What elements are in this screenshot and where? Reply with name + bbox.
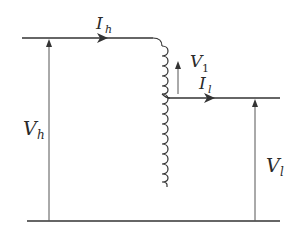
v1-arrow bbox=[175, 61, 181, 94]
svg-text:l: l bbox=[280, 165, 284, 179]
autotransformer-diagram: I h V 1 I l V h V l bbox=[0, 0, 306, 239]
vl-arrow bbox=[252, 99, 258, 221]
vh-arrow bbox=[46, 39, 52, 221]
coil-winding bbox=[162, 46, 168, 187]
svg-text:I: I bbox=[198, 73, 206, 93]
arrow-up-icon bbox=[252, 99, 258, 107]
svg-text:h: h bbox=[37, 128, 45, 142]
tap-wire bbox=[162, 93, 280, 103]
label-il: I l bbox=[198, 73, 212, 96]
arrow-up-icon bbox=[175, 61, 181, 69]
label-ih: I h bbox=[95, 13, 112, 36]
arrow-up-icon bbox=[46, 39, 52, 47]
top-wire bbox=[22, 33, 162, 46]
svg-text:l: l bbox=[208, 83, 212, 96]
svg-text:h: h bbox=[105, 23, 112, 36]
label-vh: V h bbox=[23, 117, 45, 142]
label-v1: V 1 bbox=[190, 51, 209, 75]
label-vl: V l bbox=[266, 154, 284, 179]
svg-text:I: I bbox=[95, 13, 103, 33]
